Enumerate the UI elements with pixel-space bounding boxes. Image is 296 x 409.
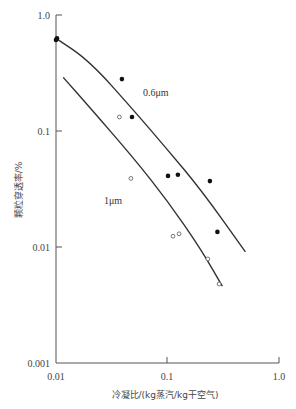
series-label-1um: 1μm (104, 195, 122, 206)
fit-curves (56, 38, 245, 286)
data-point (130, 115, 135, 120)
y-axis-title: 颗粒穿透率/% (13, 161, 24, 218)
y-tick-label: 0.1 (38, 126, 51, 137)
fit-curve-0.6μm (56, 38, 245, 252)
data-point (171, 234, 175, 238)
y-tick-label: 0.001 (28, 358, 51, 369)
fit-curve-1μm (63, 77, 222, 286)
x-tick-label: 1.0 (273, 371, 286, 382)
x-tick-label: 0.1 (161, 371, 174, 382)
axes (56, 15, 279, 363)
y-tick-label: 0.01 (33, 242, 51, 253)
series-label-0.6um: 0.6μm (143, 87, 169, 98)
data-point (177, 232, 181, 236)
data-markers (54, 36, 221, 286)
data-point (129, 177, 133, 181)
data-point (206, 257, 210, 261)
data-point (215, 230, 220, 235)
data-point (55, 36, 60, 41)
x-tick-label: 0.01 (47, 371, 65, 382)
data-point (176, 172, 181, 177)
data-point (120, 77, 125, 82)
data-point (217, 282, 221, 286)
data-point (118, 115, 122, 119)
data-point (208, 179, 213, 184)
y-tick-label: 1.0 (38, 10, 51, 21)
data-point (166, 174, 171, 179)
chart: 1.0 0.1 0.01 0.001 0.01 0.1 1.0 冷凝比/(kg蒸… (0, 0, 296, 409)
x-axis-title: 冷凝比/(kg蒸汽/kg干空气) (112, 389, 219, 400)
